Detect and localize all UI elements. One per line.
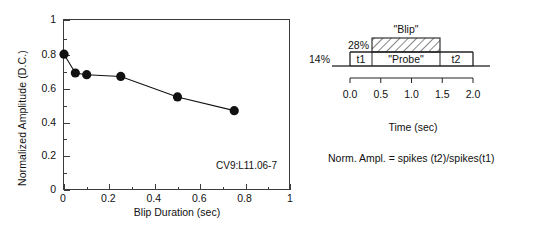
segment-label-t2: t2 [452, 53, 461, 65]
stimulus-diagram-panel: t1 "Probe" t2 14% 28% "Blip" 0.0 0.5 1.0… [310, 0, 541, 232]
segment-label-t1: t1 [357, 53, 366, 65]
segment-label-probe: "Probe" [388, 53, 424, 65]
x-tick-label-0: 0 [51, 192, 75, 204]
figure-panel: Normalized Amplitude (D.C.) [0, 0, 541, 232]
data-point-3 [116, 72, 125, 81]
y-tick-label-0.6: 0.6 [24, 82, 56, 94]
x-tick-label-0.6: 0.6 [187, 192, 211, 204]
y-tick-label-1: 1 [24, 13, 56, 25]
x-tick-label-0.4: 0.4 [142, 192, 166, 204]
blip-label: "Blip" [394, 23, 419, 35]
data-point-4 [173, 92, 182, 101]
x-axis-label: Blip Duration (sec) [63, 206, 291, 218]
blip-amplitude-label: 28% [348, 39, 369, 51]
time-tick-label-3: 1.5 [435, 88, 450, 100]
time-tick-label-0: 0.0 [343, 88, 358, 100]
stimulus-waveform: t1 "Probe" t2 14% 28% "Blip" 0.0 0.5 1.0… [310, 0, 541, 140]
y-tick-label-0.8: 0.8 [24, 48, 56, 60]
time-tick-label-4: 2.0 [466, 88, 481, 100]
normalized-amplitude-equation: Norm. Ampl. = spikes (t2)/spikes(t1) [328, 152, 495, 164]
data-point-0 [59, 50, 68, 59]
data-point-1 [71, 68, 80, 77]
line-chart-panel: Normalized Amplitude (D.C.) [0, 0, 310, 232]
x-tick-label-0.8: 0.8 [233, 192, 257, 204]
time-axis-label: Time (sec) [348, 121, 478, 133]
y-tick-label-0.4: 0.4 [24, 116, 56, 128]
x-tick-label-1: 1 [278, 192, 302, 204]
baseline-amplitude-label: 14% [309, 53, 330, 65]
data-point-5 [230, 106, 239, 115]
series-line [64, 54, 234, 110]
blip-box [372, 38, 440, 52]
data-point-2 [82, 70, 91, 79]
plot-area: CV9:L11.06-7 [63, 19, 290, 190]
time-tick-label-1: 0.5 [373, 88, 388, 100]
x-tick-label-0.2: 0.2 [96, 192, 120, 204]
time-tick-label-2: 1.0 [404, 88, 419, 100]
y-tick-label-0.2: 0.2 [24, 149, 56, 161]
chart-annotation: CV9:L11.06-7 [216, 160, 277, 171]
